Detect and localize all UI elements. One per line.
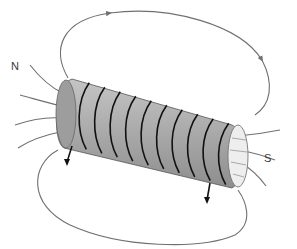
- wire-lead-right-tip: [204, 197, 210, 204]
- wire-lead-left-tip: [64, 159, 70, 166]
- field-line-n-3: [15, 118, 60, 125]
- solenoid-diagram: N S: [0, 0, 297, 249]
- coil-right-opening: [228, 125, 248, 187]
- coil-body: [56, 79, 243, 188]
- south-pole-label: S: [264, 152, 271, 164]
- coil-left-end: [56, 80, 76, 148]
- solenoid-svg: [0, 0, 297, 249]
- field-line-n-2: [20, 95, 62, 106]
- north-pole-label: N: [11, 60, 19, 72]
- field-line-n-4: [18, 132, 60, 148]
